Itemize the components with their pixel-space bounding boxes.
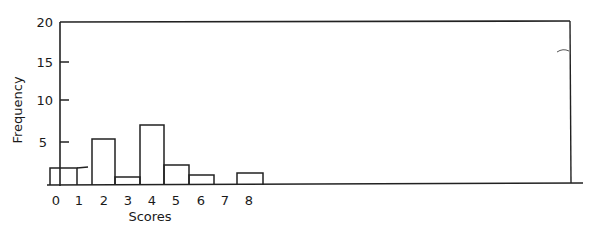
y-axis-tick-labels: 20 15 10 5 bbox=[36, 15, 53, 150]
plot-frame bbox=[47, 21, 583, 186]
x-axis-tick-labels: 0 1 2 3 4 5 6 7 8 bbox=[52, 193, 253, 208]
bar-score-5 bbox=[164, 165, 189, 185]
bar-score-3 bbox=[115, 177, 140, 185]
x-tick-label: 2 bbox=[100, 193, 108, 208]
x-tick-label: 1 bbox=[75, 193, 83, 208]
x-tick-label: 7 bbox=[221, 193, 229, 208]
stray-mark bbox=[557, 50, 569, 52]
bar-score-2 bbox=[92, 139, 115, 185]
x-tick-label: 6 bbox=[197, 193, 205, 208]
x-tick-label: 8 bbox=[245, 193, 253, 208]
y-axis-ticks bbox=[60, 62, 69, 142]
bar-score-8 bbox=[237, 173, 263, 185]
y-tick-label: 10 bbox=[36, 93, 53, 108]
bar-score-1 bbox=[77, 167, 88, 168]
histogram-chart: 20 15 10 5 Frequency 0 1 2 3 4 5 6 7 8 S… bbox=[0, 0, 593, 233]
x-axis-title: Scores bbox=[128, 209, 171, 224]
y-tick-label: 5 bbox=[39, 135, 47, 150]
x-tick-label: 4 bbox=[148, 193, 156, 208]
histogram-bars bbox=[50, 125, 263, 185]
y-tick-label: 20 bbox=[36, 15, 53, 30]
x-tick-label: 3 bbox=[124, 193, 132, 208]
y-tick-label: 15 bbox=[36, 55, 53, 70]
bar-score-6 bbox=[189, 175, 214, 185]
x-tick-label: 0 bbox=[52, 193, 60, 208]
bar-score-0 bbox=[50, 168, 77, 185]
y-axis-title: Frequency bbox=[10, 76, 25, 143]
x-tick-label: 5 bbox=[172, 193, 180, 208]
bar-score-4 bbox=[140, 125, 164, 185]
